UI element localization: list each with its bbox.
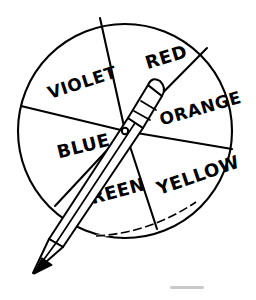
spinner-figure: RED ORANGE YELLOW GREEN BLUE VIOLET — [0, 0, 256, 300]
wheel-center-hub — [122, 128, 128, 134]
scan-smudge-artifact — [170, 286, 204, 289]
spinner-wheel-diagram: RED ORANGE YELLOW GREEN BLUE VIOLET — [0, 0, 256, 300]
